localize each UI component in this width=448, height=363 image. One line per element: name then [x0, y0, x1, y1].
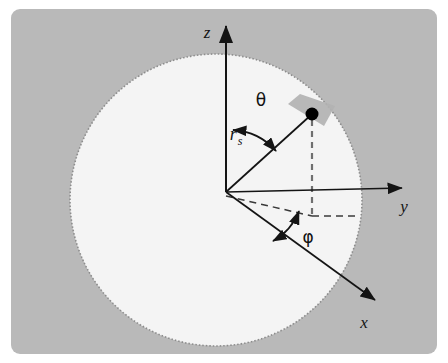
radius-vector-symbol: r	[230, 124, 238, 144]
y-axis-label: y	[398, 197, 408, 216]
point-marker	[306, 108, 319, 121]
z-axis-label: z	[203, 23, 211, 42]
figure-root: z y x θ φ rs	[0, 0, 448, 363]
spherical-coordinates-svg: z y x θ φ rs	[0, 0, 448, 363]
radius-vector-subscript: s	[238, 134, 243, 148]
sphere-disc	[70, 54, 362, 346]
diagram-canvas: z y x θ φ rs	[0, 0, 448, 363]
x-axis-label: x	[359, 313, 368, 332]
phi-angle-label: φ	[302, 227, 313, 247]
theta-angle-label: θ	[256, 90, 266, 110]
